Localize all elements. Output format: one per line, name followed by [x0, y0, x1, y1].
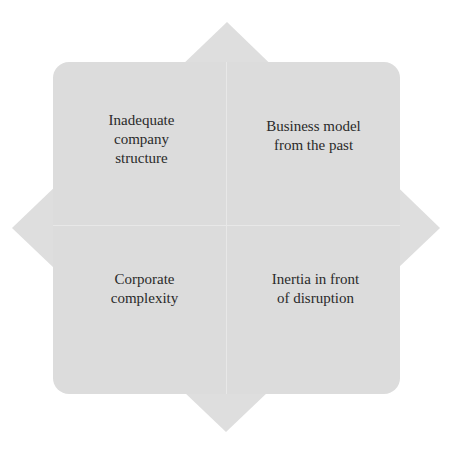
quadrant-top-left: Inadequate company structure: [53, 62, 227, 226]
quadrant-label-business-model-from-the-past: Business model from the past: [266, 117, 361, 155]
four-quadrant-diagram: Inadequate company structure Business mo…: [0, 0, 457, 449]
quadrant-bottom-left: Corporate complexity: [53, 226, 227, 394]
quadrant-top-right: Business model from the past: [227, 62, 400, 226]
quadrant-bottom-right: Inertia in front of disruption: [227, 226, 400, 394]
quadrant-label-inertia-in-front-of-disruption: Inertia in front of disruption: [272, 270, 359, 308]
quadrant-label-inadequate-company-structure: Inadequate company structure: [109, 111, 175, 168]
quadrant-label-corporate-complexity: Corporate complexity: [111, 270, 179, 308]
